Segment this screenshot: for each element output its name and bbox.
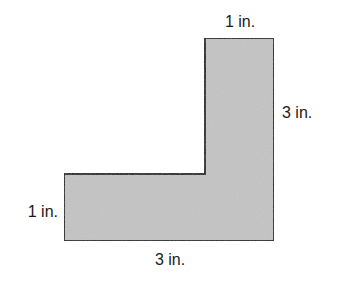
l-shape	[64, 38, 274, 241]
l-shape-diagram: 1 in. 3 in. 1 in. 3 in.	[0, 0, 340, 284]
label-left-height: 1 in.	[28, 203, 58, 220]
label-bottom-width: 3 in.	[155, 251, 185, 268]
label-right-height: 3 in.	[282, 104, 312, 121]
label-top-width: 1 in.	[225, 13, 255, 30]
